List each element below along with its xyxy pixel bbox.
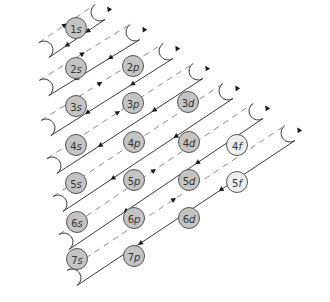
orbital-label: 5d bbox=[183, 175, 196, 186]
orbital-node-7p: 7p bbox=[124, 246, 145, 267]
orbital-label: 4p bbox=[128, 137, 141, 148]
orbital-label: 5p bbox=[128, 175, 141, 186]
aufbau-diagram: 1s2s2p3s3p3d4s4p4d4f5s5p5d5f6s6p6d7s7p bbox=[0, 0, 330, 302]
orbital-label: 3p bbox=[127, 98, 140, 109]
orbital-node-4d: 4d bbox=[179, 132, 200, 153]
orbital-label: 6d bbox=[183, 213, 196, 224]
orbital-label: 7p bbox=[128, 251, 141, 262]
orbital-node-4p: 4p bbox=[124, 132, 145, 153]
orbital-node-5f: 5f bbox=[227, 172, 248, 193]
orbital-node-3p: 3p bbox=[123, 93, 144, 114]
orbital-label: 5f bbox=[232, 177, 243, 188]
orbital-node-5s: 5s bbox=[66, 173, 87, 194]
orbital-node-5p: 5p bbox=[124, 170, 145, 191]
orbital-node-4f: 4f bbox=[227, 135, 248, 156]
orbital-label: 2p bbox=[127, 61, 140, 72]
orbital-node-6s: 6s bbox=[67, 212, 88, 233]
orbital-node-5d: 5d bbox=[179, 170, 200, 191]
orbital-nodes: 1s2s2p3s3p3d4s4p4d4f5s5p5d5f6s6p6d7s7p bbox=[0, 0, 330, 302]
orbital-node-6p: 6p bbox=[124, 208, 145, 229]
orbital-label: 4d bbox=[183, 137, 196, 148]
orbital-label: 6s bbox=[71, 217, 83, 228]
orbital-label: 6p bbox=[128, 213, 141, 224]
orbital-label: 1s bbox=[70, 23, 82, 34]
orbital-label: 3d bbox=[182, 97, 195, 108]
orbital-label: 4s bbox=[70, 140, 82, 151]
orbital-node-3s: 3s bbox=[66, 96, 87, 117]
orbital-node-6d: 6d bbox=[179, 208, 200, 229]
orbital-node-3d: 3d bbox=[178, 92, 199, 113]
orbital-node-7s: 7s bbox=[67, 249, 88, 270]
orbital-node-2p: 2p bbox=[123, 56, 144, 77]
orbital-node-1s: 1s bbox=[66, 18, 87, 39]
orbital-node-4s: 4s bbox=[66, 135, 87, 156]
orbital-label: 2s bbox=[70, 63, 82, 74]
orbital-node-2s: 2s bbox=[66, 58, 87, 79]
orbital-label: 3s bbox=[70, 101, 82, 112]
orbital-label: 4f bbox=[232, 140, 243, 151]
orbital-label: 5s bbox=[70, 178, 82, 189]
orbital-label: 7s bbox=[71, 254, 83, 265]
